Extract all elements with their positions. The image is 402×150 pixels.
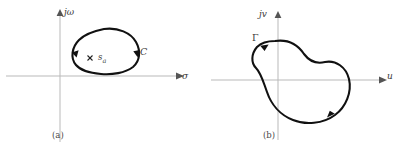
panel-a-horizontal-axis-label: σ — [182, 72, 188, 81]
contour-mapping-figure: jω σ C sa (a) — [0, 0, 402, 150]
u-axis — [211, 77, 387, 84]
panel-b-graphic — [201, 0, 402, 150]
panel-a-pole-label: sa — [98, 53, 106, 64]
pole-marker-icon — [88, 56, 93, 61]
panel-a-graphic — [0, 0, 201, 150]
panel-a: jω σ C sa (a) — [0, 0, 201, 150]
contour-c — [72, 29, 140, 75]
panel-b-vertical-axis-label: jv — [259, 10, 267, 19]
jv-axis — [275, 11, 282, 140]
panel-a-vertical-axis-label: jω — [64, 8, 74, 17]
panel-a-contour-label: C — [140, 47, 147, 57]
panel-a-caption: (a) — [52, 130, 64, 140]
panel-b: jv u Γ (b) — [201, 0, 402, 150]
panel-b-horizontal-axis-label: u — [387, 72, 393, 81]
pole-label-subscript: a — [102, 57, 106, 65]
panel-b-contour-label: Γ — [252, 33, 259, 43]
contour-gamma — [252, 41, 349, 123]
panel-b-caption: (b) — [263, 130, 275, 140]
